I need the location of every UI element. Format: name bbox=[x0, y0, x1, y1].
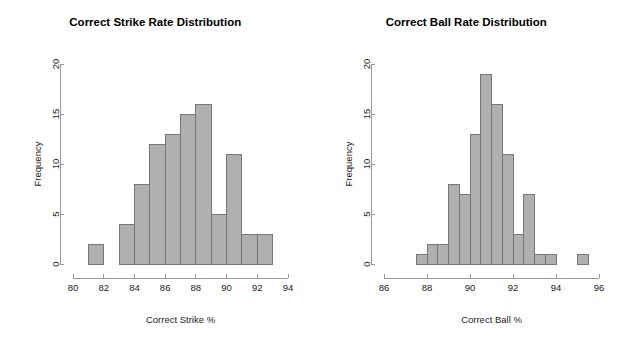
histogram-bar bbox=[470, 134, 481, 264]
chart-correct-ball-rate: Correct Ball Rate Distribution05101520Fr… bbox=[311, 0, 621, 351]
x-axis-label: Correct Strike % bbox=[146, 314, 216, 325]
histogram-bars bbox=[88, 104, 272, 264]
x-axis-tick-label: 96 bbox=[593, 282, 604, 293]
y-axis-label: Frequency bbox=[32, 141, 43, 186]
x-axis-tick-label: 86 bbox=[160, 282, 171, 293]
x-axis-tick-label: 88 bbox=[191, 282, 202, 293]
histogram-bar bbox=[134, 184, 149, 264]
y-axis-label: Frequency bbox=[342, 141, 353, 186]
histogram-figure: Correct Strike Rate Distribution05101520… bbox=[0, 0, 621, 351]
histogram-bar bbox=[150, 144, 165, 264]
chart-correct-strike-rate: Correct Strike Rate Distribution05101520… bbox=[0, 0, 311, 351]
histogram-bar bbox=[577, 254, 588, 264]
histogram-bar bbox=[513, 234, 524, 264]
x-axis-tick-label: 86 bbox=[378, 282, 389, 293]
y-axis-tick-label: 15 bbox=[50, 109, 61, 120]
x-axis-tick-label: 94 bbox=[283, 282, 294, 293]
chart-title: Correct Strike Rate Distribution bbox=[69, 16, 241, 28]
x-axis-tick-label: 92 bbox=[507, 282, 518, 293]
y-axis-tick-label: 5 bbox=[50, 211, 61, 216]
y-axis-tick-label: 5 bbox=[360, 211, 371, 216]
x-axis-tick-label: 90 bbox=[464, 282, 475, 293]
x-axis-tick-label: 94 bbox=[550, 282, 561, 293]
histogram-bar bbox=[437, 244, 448, 264]
y-axis-tick-label: 0 bbox=[360, 261, 371, 266]
y-axis-tick-label: 0 bbox=[50, 261, 61, 266]
histogram-bar bbox=[119, 224, 134, 264]
histogram-bar bbox=[211, 214, 226, 264]
y-axis-tick-label: 20 bbox=[50, 59, 61, 70]
y-axis-tick-label: 10 bbox=[360, 159, 371, 170]
x-axis-tick-label: 92 bbox=[252, 282, 263, 293]
histogram-bar bbox=[523, 194, 534, 264]
x-axis-tick-label: 80 bbox=[68, 282, 79, 293]
histogram-bar bbox=[165, 134, 180, 264]
histogram-bar bbox=[427, 244, 438, 264]
x-axis-label: Correct Ball % bbox=[461, 314, 522, 325]
panel-correct-ball-rate: Correct Ball Rate Distribution05101520Fr… bbox=[311, 0, 621, 351]
histogram-bar bbox=[181, 114, 196, 264]
histogram-bar bbox=[534, 254, 545, 264]
x-axis-tick-label: 88 bbox=[421, 282, 432, 293]
histogram-bar bbox=[227, 154, 242, 264]
panel-correct-strike-rate: Correct Strike Rate Distribution05101520… bbox=[0, 0, 311, 351]
x-axis-tick-label: 90 bbox=[221, 282, 232, 293]
y-axis-tick-label: 20 bbox=[360, 59, 371, 70]
histogram-bar bbox=[88, 244, 103, 264]
histogram-bar bbox=[448, 184, 459, 264]
histogram-bar bbox=[491, 104, 502, 264]
histogram-bar bbox=[502, 154, 513, 264]
histogram-bars bbox=[416, 74, 588, 264]
histogram-bar bbox=[257, 234, 272, 264]
histogram-bar bbox=[545, 254, 556, 264]
chart-title: Correct Ball Rate Distribution bbox=[385, 16, 546, 28]
x-axis-tick-label: 82 bbox=[98, 282, 109, 293]
y-axis-tick-label: 10 bbox=[50, 159, 61, 170]
histogram-bar bbox=[459, 194, 470, 264]
histogram-bar bbox=[480, 74, 491, 264]
y-axis-tick-label: 15 bbox=[360, 109, 371, 120]
histogram-bar bbox=[416, 254, 427, 264]
x-axis-tick-label: 84 bbox=[129, 282, 140, 293]
histogram-bar bbox=[242, 234, 257, 264]
histogram-bar bbox=[196, 104, 211, 264]
